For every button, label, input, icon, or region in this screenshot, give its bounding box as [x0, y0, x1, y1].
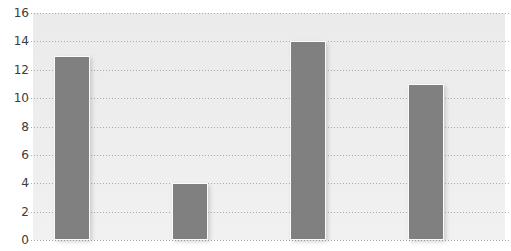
y-axis-tick-label: 4 — [0, 177, 29, 189]
bar — [408, 84, 444, 240]
y-axis-tick-label: 2 — [0, 206, 29, 218]
y-axis-tick-label: 10 — [0, 92, 29, 104]
bar — [290, 41, 326, 240]
gridline — [28, 240, 511, 241]
gridline — [28, 41, 511, 42]
gridline — [28, 70, 511, 71]
y-axis-tick-label: 16 — [0, 7, 29, 19]
chart-title-clipped: · — [0, 0, 511, 12]
bar-chart: · 0246810121416 — [0, 0, 511, 251]
y-axis: 0246810121416 — [0, 0, 29, 251]
y-axis-tick-label: 6 — [0, 149, 29, 161]
plot-area — [33, 13, 505, 240]
y-axis-tick-label: 0 — [0, 234, 29, 246]
y-axis-tick-label: 12 — [0, 64, 29, 76]
y-axis-tick-label: 14 — [0, 35, 29, 47]
y-axis-tick-label: 8 — [0, 121, 29, 133]
bar — [54, 56, 90, 240]
gridline — [28, 13, 511, 14]
chart-title-text: · — [0, 0, 511, 5]
bar — [172, 183, 208, 240]
